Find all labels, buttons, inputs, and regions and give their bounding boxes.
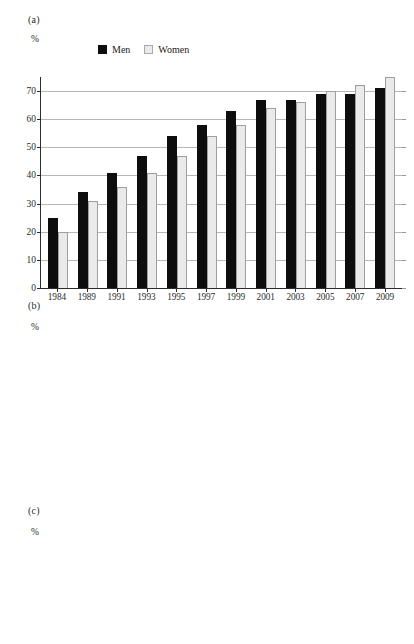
bar-group <box>370 77 400 288</box>
y-axis-tick-label: 10 <box>27 255 37 265</box>
bar-men <box>375 88 385 288</box>
bar-women <box>266 108 276 288</box>
y-axis-right-tick-mark <box>402 91 406 92</box>
legend: Men Women <box>98 44 189 55</box>
bar-group <box>103 77 133 288</box>
figure-page: (a) % Men Women 010203040506070 19841989… <box>0 0 414 644</box>
y-axis-right-tick-mark <box>402 204 406 205</box>
cropped-header-text <box>28 0 368 9</box>
bar-men <box>48 218 58 288</box>
legend-entry-women: Women <box>144 44 189 55</box>
bar-women <box>58 232 68 288</box>
legend-label-men: Men <box>112 44 130 55</box>
y-axis-tick-label: 50 <box>27 142 37 152</box>
y-axis-right-tick-mark <box>402 147 406 148</box>
y-axis-tick-label: 70 <box>27 86 37 96</box>
bar-men <box>107 173 117 288</box>
bar-women <box>177 156 187 288</box>
y-axis-tick-mark <box>37 288 41 289</box>
bar-group <box>281 77 311 288</box>
bar-women <box>385 77 395 288</box>
bar-women <box>88 201 98 288</box>
bar-group <box>341 77 371 288</box>
y-axis-tick-label: 40 <box>27 170 37 180</box>
plot-area-a: 010203040506070 <box>40 77 402 289</box>
bar-women <box>207 136 217 288</box>
bar-group <box>162 77 192 288</box>
y-axis-right-tick-mark <box>402 288 406 289</box>
bar-men <box>78 192 88 288</box>
panel-label-c: (c) <box>28 505 40 516</box>
bar-men <box>137 156 147 288</box>
bar-women <box>147 173 157 288</box>
bar-women <box>326 91 336 288</box>
bar-men <box>316 94 326 288</box>
y-axis-right-tick-mark <box>402 119 406 120</box>
y-axis-tick-label: 0 <box>31 283 36 293</box>
y-axis-tick-label: 30 <box>27 199 37 209</box>
chart-panel-a: (a) % Men Women 010203040506070 19841989… <box>0 14 414 300</box>
bar-group <box>73 77 103 288</box>
bar-group <box>311 77 341 288</box>
legend-label-women: Women <box>158 44 189 55</box>
bar-women <box>236 125 246 288</box>
chart-panel-b: (b) % 010203040 198919911993199519971999… <box>0 300 414 500</box>
bar-group <box>43 77 73 288</box>
bar-women <box>117 187 127 288</box>
y-axis-right-tick-mark <box>402 260 406 261</box>
bar-group <box>132 77 162 288</box>
bar-men <box>256 100 266 288</box>
legend-swatch-men-icon <box>98 45 107 54</box>
y-axis-tick-label: 20 <box>27 227 37 237</box>
panel-label-a: (a) <box>28 14 40 25</box>
bar-men <box>226 111 236 288</box>
bar-men <box>167 136 177 288</box>
y-axis-right-tick-mark <box>402 175 406 176</box>
panel-label-b: (b) <box>28 300 40 311</box>
bar-men <box>286 100 296 288</box>
y-axis-unit-a: % <box>31 34 39 44</box>
legend-swatch-women-icon <box>144 45 153 54</box>
chart-panel-c: (c) % 01020 1989199119931995199719992001… <box>0 505 414 644</box>
legend-entry-men: Men <box>98 44 130 55</box>
bar-group <box>251 77 281 288</box>
bar-men <box>345 94 355 288</box>
bar-group <box>222 77 252 288</box>
y-axis-unit-c: % <box>31 527 39 537</box>
bar-group <box>192 77 222 288</box>
bar-women <box>296 102 306 288</box>
y-axis-unit-b: % <box>31 322 39 332</box>
bar-women <box>355 85 365 288</box>
bar-group-container <box>41 77 402 288</box>
y-axis-right-tick-mark <box>402 232 406 233</box>
bar-men <box>197 125 207 288</box>
y-axis-tick-label: 60 <box>27 114 37 124</box>
